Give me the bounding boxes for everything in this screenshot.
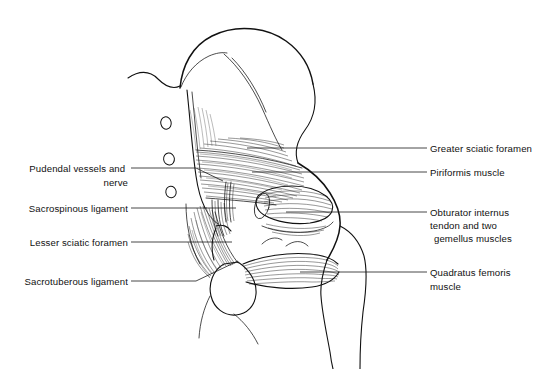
label-lesser-sciatic-foramen: Lesser sciatic foramen	[30, 237, 128, 248]
label-sacrotuberous-ligament: Sacrotuberous ligament	[24, 276, 128, 287]
sacral-foramen-2	[163, 152, 175, 165]
ilium-lateral-border	[296, 84, 315, 163]
capsule-fold-2	[262, 238, 282, 244]
psis-knob	[181, 53, 227, 87]
iliac-crest-outline	[180, 29, 313, 88]
sacrum-medial-edge-inner	[192, 92, 201, 178]
capsule-fold	[286, 242, 308, 247]
quadratus-femoris-muscle-belly	[244, 257, 339, 284]
anatomy-figure: Pudendal vessels and nerve Sacrospinous …	[0, 0, 550, 369]
medial-soft-tissue-border	[199, 296, 210, 338]
gemellus-muscle-fibers	[266, 224, 326, 236]
gluteal-surface-ridge	[224, 54, 282, 150]
sacral-foramen-1	[160, 116, 173, 130]
sacral-foramen-3	[165, 186, 177, 199]
intertrochanteric-contour	[321, 260, 333, 369]
leader-pudendal	[131, 168, 223, 181]
gluteal-surface-ridge-2	[232, 58, 266, 112]
label-pudendal-vessels-and-nerve: Pudendal vessels and nerve	[29, 163, 128, 188]
sacroiliac-junction-line	[128, 72, 180, 87]
anatomy-illustration: Pudendal vessels and nerve Sacrospinous …	[0, 0, 550, 369]
skeletal-outlines	[128, 29, 366, 369]
tendon-cut-surface	[252, 192, 273, 221]
label-obturator-internus: Obturator internus tendon and two gemell…	[430, 207, 512, 244]
piriformis-fiber-shading	[200, 154, 292, 196]
quadratus-femoris-lower-border	[246, 272, 339, 288]
hamstring-origin-curve	[234, 314, 258, 344]
leader-sacrotuberous	[131, 261, 238, 281]
greater-trochanter-outline	[298, 163, 340, 260]
label-group-left: Pudendal vessels and nerve Sacrospinous …	[24, 163, 128, 287]
label-greater-sciatic-foramen: Greater sciatic foramen	[430, 143, 532, 154]
lateral-thigh-border	[340, 226, 366, 369]
label-quadratus-femoris: Quadratus femoris muscle	[430, 267, 513, 292]
label-group-right: Greater sciatic foramen Piriformis muscl…	[430, 143, 532, 292]
label-sacrospinous-ligament: Sacrospinous ligament	[29, 203, 128, 214]
obturator-internus-tendon-fibers	[264, 191, 332, 221]
label-piriformis-muscle: Piriformis muscle	[430, 167, 505, 178]
